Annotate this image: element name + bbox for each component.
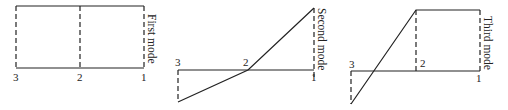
mode-shapes-diagram: 3 2 1 First mode 3 2 1 Second mode 3 2 1… (0, 0, 508, 110)
third-mode-node3-label: 3 (349, 58, 355, 70)
first-mode-node1-label: 1 (141, 71, 147, 83)
first-mode-title: First mode (146, 14, 158, 64)
third-mode-node2-label: 2 (420, 57, 426, 69)
second-mode-shape (178, 8, 314, 102)
second-mode-node1-label: 1 (311, 71, 317, 83)
first-mode-panel: 3 2 1 First mode (13, 6, 158, 83)
third-mode-shape (351, 10, 480, 104)
second-mode-node2-label: 2 (243, 56, 249, 68)
third-mode-title: Third mode (482, 16, 494, 70)
second-mode-title: Second mode (316, 8, 328, 70)
first-mode-node3-label: 3 (13, 71, 19, 83)
second-mode-node3-label: 3 (175, 56, 181, 68)
third-mode-node1-label: 1 (476, 72, 482, 84)
second-mode-panel: 3 2 1 Second mode (175, 8, 328, 102)
first-mode-node2-label: 2 (77, 71, 83, 83)
third-mode-panel: 3 2 1 Third mode (349, 10, 494, 104)
